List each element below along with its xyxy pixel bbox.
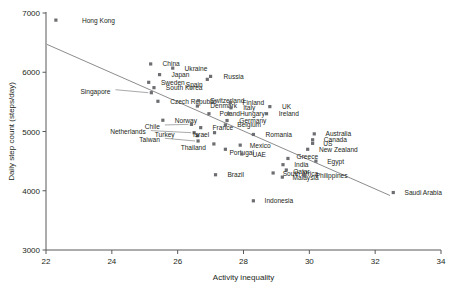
data-point-marker: [311, 142, 314, 145]
data-point-marker: [227, 112, 230, 115]
x-tick-label: 24: [107, 257, 116, 266]
data-point-label: New Zealand: [319, 146, 358, 153]
data-point-marker: [252, 133, 255, 136]
y-tick-label: 6000: [22, 68, 40, 77]
data-point-marker: [152, 86, 155, 89]
data-point-marker: [314, 160, 317, 163]
data-point-label: Brazil: [227, 171, 244, 178]
data-point-label: Egypt: [327, 158, 344, 166]
data-point-marker: [281, 163, 284, 166]
data-point-label: Israel: [193, 131, 210, 138]
data-point-label: Denmark: [210, 102, 237, 109]
scatter-chart: 3000400050006000700022242628303234Activi…: [0, 0, 454, 289]
data-point-marker: [197, 99, 200, 102]
data-point-marker: [196, 139, 199, 142]
data-point-marker: [224, 148, 227, 151]
data-point-marker: [229, 101, 232, 104]
x-tick-label: 22: [42, 257, 51, 266]
x-tick-label: 26: [173, 257, 182, 266]
point-leader-line: [165, 124, 189, 125]
data-point-marker: [265, 112, 268, 115]
data-point-label: France: [213, 124, 234, 131]
data-point-label: Chile: [145, 123, 160, 130]
data-point-label: Saudi Arabia: [405, 189, 443, 196]
data-point-marker: [303, 174, 306, 177]
x-tick-label: 32: [371, 257, 380, 266]
data-point-marker: [158, 73, 161, 76]
data-point-label: Indonesia: [265, 197, 294, 204]
data-point-marker: [212, 142, 215, 145]
data-point-label: Thailand: [181, 144, 207, 151]
data-point-marker: [214, 173, 217, 176]
data-point-marker: [306, 148, 309, 151]
data-point-marker: [54, 19, 57, 22]
x-tick-label: 30: [305, 257, 314, 266]
data-point-marker: [156, 100, 159, 103]
data-point-label: UAE: [252, 151, 266, 158]
data-point-marker: [171, 67, 174, 70]
data-point-marker: [272, 171, 275, 174]
data-point-label: Netherlands: [110, 128, 146, 135]
data-point-marker: [199, 126, 202, 129]
plot-area: 3000400050006000700022242628303234Activi…: [0, 0, 454, 289]
data-point-label: Ireland: [279, 110, 299, 117]
point-leader-line: [115, 90, 148, 93]
data-point-marker: [150, 91, 153, 94]
data-point-marker: [196, 104, 199, 107]
data-point-marker: [149, 62, 152, 65]
x-tick-label: 28: [239, 257, 248, 266]
data-point-marker: [147, 81, 150, 84]
data-point-marker: [209, 75, 212, 78]
y-axis-title: Daily step count (steps/day): [7, 82, 16, 181]
data-point-marker: [313, 132, 316, 135]
data-point-marker: [190, 123, 193, 126]
data-point-marker: [229, 106, 232, 109]
data-point-marker: [268, 105, 271, 108]
data-point-marker: [240, 152, 243, 155]
data-point-label: Philippines: [316, 172, 349, 180]
data-point-label: Taiwan: [139, 136, 160, 143]
point-leader-line: [165, 138, 195, 141]
data-point-label: UK: [282, 103, 292, 110]
data-point-marker: [207, 112, 210, 115]
data-point-label: South Korea: [166, 84, 203, 91]
y-tick-label: 4000: [22, 187, 40, 196]
x-axis-title: Activity inequality: [213, 273, 274, 282]
data-point-marker: [161, 119, 164, 122]
data-point-label: Russia: [223, 73, 243, 80]
data-point-marker: [213, 131, 216, 134]
x-tick-label: 34: [437, 257, 446, 266]
data-point-marker: [225, 119, 228, 122]
data-point-marker: [286, 157, 289, 160]
data-point-marker: [206, 78, 209, 81]
data-point-marker: [281, 176, 284, 179]
y-tick-label: 7000: [22, 9, 40, 18]
data-point-label: Romania: [266, 131, 293, 138]
data-point-marker: [392, 191, 395, 194]
data-point-label: Norway: [175, 117, 198, 125]
data-point-label: Singapore: [80, 88, 110, 96]
data-point-marker: [252, 199, 255, 202]
y-tick-label: 5000: [22, 128, 40, 137]
y-tick-label: 3000: [22, 246, 40, 255]
data-point-label: Belgium: [237, 121, 261, 129]
data-point-label: Greece: [297, 153, 319, 160]
data-point-label: Hong Kong: [82, 17, 115, 25]
data-point-marker: [311, 138, 314, 141]
data-point-label: China: [163, 60, 181, 67]
data-point-marker: [239, 144, 242, 147]
